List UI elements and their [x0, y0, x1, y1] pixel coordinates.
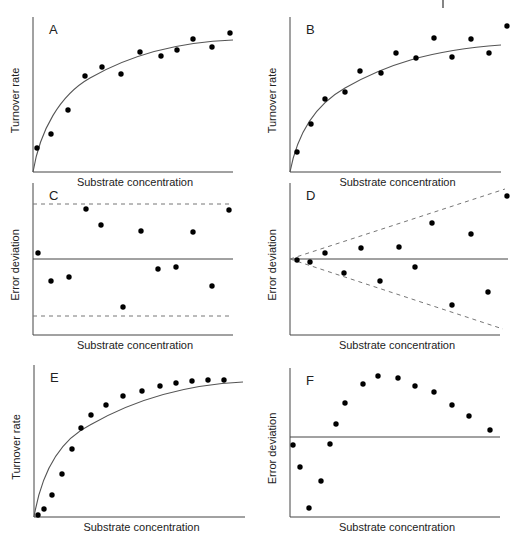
data-point: [59, 471, 64, 476]
data-point: [468, 231, 473, 236]
data-point: [396, 244, 401, 249]
data-point: [377, 278, 382, 283]
data-point: [504, 193, 509, 198]
data-point: [221, 377, 226, 382]
fit-curve: [34, 382, 243, 517]
data-point: [82, 73, 87, 78]
data-point: [412, 264, 417, 269]
data-point: [173, 264, 178, 269]
data-point: [120, 393, 125, 398]
panel-letter: F: [306, 373, 314, 388]
x-axis-label: Substrate concentration: [339, 339, 455, 351]
data-point: [395, 375, 400, 380]
data-point: [297, 464, 302, 469]
data-point: [412, 383, 417, 388]
data-point: [65, 107, 70, 112]
data-point: [393, 50, 398, 55]
data-point: [341, 270, 346, 275]
data-point: [209, 283, 214, 288]
data-point: [294, 149, 299, 154]
data-point: [378, 70, 383, 75]
data-point: [449, 54, 454, 59]
x-axis-label: Substrate concentration: [339, 521, 455, 533]
data-point: [120, 304, 125, 309]
data-point: [358, 245, 363, 250]
panel-f: FSubstrate concentrationError deviation: [266, 368, 500, 533]
data-point: [190, 229, 195, 234]
data-point: [468, 36, 473, 41]
data-point: [49, 492, 54, 497]
data-point: [34, 145, 39, 150]
data-point: [190, 36, 195, 41]
data-point: [487, 427, 492, 432]
data-point: [327, 441, 332, 446]
y-axis-label: Error deviation: [266, 413, 278, 485]
panel-b: BSubstrate concentrationTurnover rate: [266, 17, 510, 188]
data-point: [118, 71, 123, 76]
panel-letter: D: [306, 188, 315, 203]
data-point: [173, 380, 178, 385]
fit-curve: [33, 40, 233, 172]
panel-letter: A: [49, 22, 58, 37]
data-point: [205, 377, 210, 382]
data-point: [322, 250, 327, 255]
fit-curve: [290, 45, 501, 172]
data-point: [98, 222, 103, 227]
data-point: [41, 506, 46, 511]
data-point: [333, 421, 338, 426]
panel-e: ESubstrate concentrationTurnover rate: [10, 365, 245, 533]
data-point: [449, 402, 454, 407]
data-point: [48, 278, 53, 283]
data-point: [157, 383, 162, 388]
data-point: [485, 289, 490, 294]
data-point: [431, 35, 436, 40]
data-point: [466, 413, 471, 418]
panel-a: ASubstrate concentrationTurnover rate: [9, 17, 233, 188]
data-point: [294, 257, 299, 262]
data-point: [308, 121, 313, 126]
data-point: [306, 505, 311, 510]
panel-c: CSubstrate concentrationError deviation: [9, 183, 233, 351]
dashed-bound: [290, 259, 503, 329]
data-point: [413, 55, 418, 60]
data-point: [227, 30, 232, 35]
data-point: [158, 53, 163, 58]
data-point: [486, 50, 491, 55]
data-point: [342, 400, 347, 405]
x-axis-label: Substrate concentration: [77, 176, 193, 188]
x-axis-label: Substrate concentration: [83, 521, 199, 533]
data-point: [342, 89, 347, 94]
y-axis-label: Turnover rate: [9, 68, 21, 134]
data-point: [35, 250, 40, 255]
data-point: [174, 47, 179, 52]
data-point: [375, 373, 380, 378]
y-axis-label: Error deviation: [9, 229, 21, 301]
panel-letter: C: [49, 188, 58, 203]
data-point: [48, 131, 53, 136]
data-point: [429, 220, 434, 225]
data-point: [155, 266, 160, 271]
y-axis-label: Turnover rate: [10, 414, 22, 480]
data-point: [290, 442, 295, 447]
data-point: [99, 64, 104, 69]
data-point: [83, 206, 88, 211]
data-point: [360, 381, 365, 386]
data-point: [189, 378, 194, 383]
x-axis-label: Substrate concentration: [339, 176, 455, 188]
data-point: [137, 49, 142, 54]
y-axis-label: Turnover rate: [266, 68, 278, 134]
data-point: [138, 228, 143, 233]
panel-d: DSubstrate concentrationError deviation: [266, 183, 510, 351]
data-point: [35, 512, 40, 517]
data-point: [78, 425, 83, 430]
data-point: [307, 259, 312, 264]
data-point: [357, 68, 362, 73]
data-point: [209, 44, 214, 49]
data-point: [318, 478, 323, 483]
data-point: [449, 302, 454, 307]
panel-letter: E: [50, 370, 59, 385]
data-point: [322, 96, 327, 101]
figure: ASubstrate concentrationTurnover rateBSu…: [0, 0, 519, 540]
data-point: [103, 402, 108, 407]
data-point: [431, 389, 436, 394]
